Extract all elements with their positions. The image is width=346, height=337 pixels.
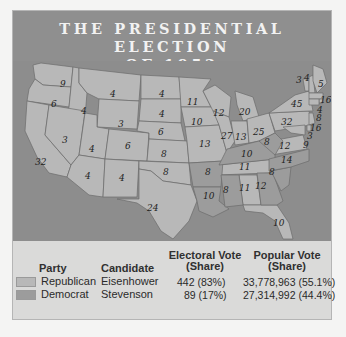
ev-label-wisconsin: 12 [213, 108, 224, 118]
party-democrat: Democrat [41, 288, 89, 300]
header-party: Party [39, 263, 67, 274]
candidate-eisenhower: Eisenhower [101, 275, 158, 287]
ev-label-north-carolina: 14 [281, 155, 292, 165]
state-florida [243, 205, 293, 239]
popular-stevenson: 27,314,992 (44.4%) [243, 289, 335, 301]
ev-label-massachusetts: 16 [320, 95, 331, 105]
ev-label-kentucky: 10 [241, 149, 252, 159]
ev-label-indiana: 13 [235, 132, 246, 142]
ev-label-nevada: 3 [62, 135, 68, 145]
ev-label-california: 32 [35, 157, 46, 167]
header-popular-vote: Popular Vote (Share) [245, 250, 329, 272]
ev-label-virginia: 12 [279, 141, 290, 151]
title-line-1: THE PRESIDENTIAL ELECTION [13, 20, 331, 56]
ev-label-south-carolina: 8 [269, 167, 275, 177]
ev-label-montana: 4 [110, 89, 116, 99]
ev-label-mississippi: 8 [223, 185, 229, 195]
ev-label-maryland: 9 [303, 140, 309, 150]
ev-label-texas: 24 [147, 203, 158, 213]
header-electoral-vote: Electoral Vote (Share) [163, 250, 247, 272]
ev-label-vermont: 3 [296, 75, 302, 85]
party-republican: Republican [41, 275, 96, 287]
ev-label-tennessee: 11 [239, 162, 250, 172]
electoral-stevenson: 89 (17%) [184, 289, 227, 301]
ev-label-west-virginia: 8 [264, 137, 270, 147]
header-candidate: Candidate [101, 263, 154, 274]
ev-label-north-dakota: 4 [159, 89, 165, 99]
us-election-map: 9 6 32 4 3 4 3 4 6 4 4 4 4 6 8 8 24 11 1… [13, 61, 331, 241]
ev-label-colorado: 6 [125, 141, 131, 151]
header-electoral-line2: (Share) [163, 261, 247, 272]
ev-label-illinois: 27 [221, 131, 232, 141]
map-title: THE PRESIDENTIAL ELECTION OF 1952 [13, 11, 331, 61]
ev-label-ohio: 25 [253, 127, 264, 137]
ev-label-pennsylvania: 32 [281, 117, 292, 127]
ev-label-utah: 4 [89, 144, 95, 154]
election-results-legend: Party Candidate Electoral Vote (Share) P… [13, 241, 331, 319]
ev-label-connecticut: 8 [316, 113, 322, 123]
ev-label-nebraska: 6 [158, 127, 164, 137]
ev-label-minnesota: 11 [187, 97, 198, 107]
ev-label-south-dakota: 4 [159, 109, 165, 119]
electoral-eisenhower: 442 (83%) [177, 276, 225, 288]
ev-label-iowa: 10 [191, 117, 202, 127]
ev-label-oregon: 6 [51, 99, 57, 109]
candidate-stevenson: Stevenson [101, 288, 153, 300]
ev-label-louisiana: 10 [203, 191, 214, 201]
ev-label-michigan: 20 [239, 107, 250, 117]
ev-label-georgia: 12 [255, 181, 266, 191]
ev-label-wyoming: 3 [118, 119, 124, 129]
popular-eisenhower: 33,778,963 (55.1%) [243, 276, 335, 288]
republican-swatch [16, 277, 36, 287]
ev-label-florida: 10 [273, 218, 284, 228]
ev-label-oklahoma: 8 [163, 167, 169, 177]
ev-label-new-hampshire: 4 [304, 73, 310, 83]
ev-label-arizona: 4 [85, 171, 91, 181]
ev-label-arkansas: 8 [205, 167, 211, 177]
ev-label-washington: 9 [60, 79, 66, 89]
ev-label-missouri: 13 [199, 139, 210, 149]
header-popular-line2: (Share) [245, 261, 329, 272]
state-kansas [147, 139, 189, 163]
democrat-swatch [16, 290, 36, 300]
ev-label-kansas: 8 [161, 149, 167, 159]
ev-label-new-mexico: 4 [119, 173, 125, 183]
ev-label-alabama: 11 [239, 183, 250, 193]
ev-label-new-york: 45 [291, 99, 302, 109]
map-figure: THE PRESIDENTIAL ELECTION OF 1952 [12, 10, 332, 320]
ev-label-idaho: 4 [81, 106, 87, 116]
ev-label-maine: 5 [318, 79, 324, 89]
